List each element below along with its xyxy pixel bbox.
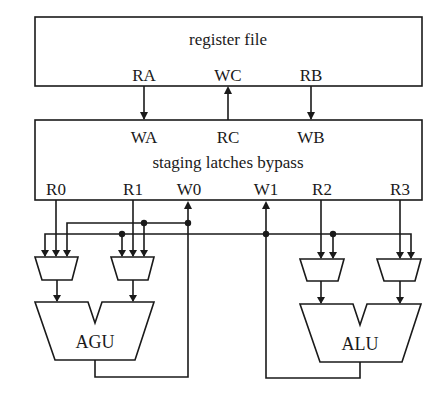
port-wc: WC — [214, 66, 241, 85]
port-r2: R2 — [312, 180, 332, 199]
arrowhead-down-icon — [396, 297, 404, 304]
port-wa: WA — [131, 128, 158, 147]
arrowhead-up-icon — [184, 201, 192, 209]
arrowhead-down-icon — [140, 112, 148, 120]
mux-2 — [111, 257, 154, 280]
port-w0: W0 — [177, 180, 202, 199]
arrowhead-down-icon — [53, 295, 61, 302]
agu-label: AGU — [76, 332, 115, 352]
bypass-bus-w1 — [45, 231, 411, 258]
port-r3: R3 — [390, 180, 410, 199]
port-w1: W1 — [254, 180, 279, 199]
arrowhead-up-icon — [262, 201, 270, 209]
mux-1 — [35, 257, 78, 280]
mux-4 — [377, 259, 421, 281]
register-file-block: register file RA WC RB — [35, 17, 422, 86]
register-file-title: register file — [189, 30, 267, 49]
bypass-bus-w0 — [67, 220, 191, 256]
arrowhead-down-icon — [129, 295, 137, 302]
arrowhead-up-icon — [224, 86, 232, 94]
staging-latches-block: WA RC WB staging latches bypass R0 R1 W0… — [35, 120, 422, 200]
port-rc: RC — [217, 128, 240, 147]
arrowhead-down-icon — [307, 112, 315, 120]
alu-label: ALU — [342, 334, 379, 354]
agu-unit: AGU — [35, 302, 154, 360]
mux-input-arrowheads — [41, 250, 415, 259]
port-ra: RA — [132, 66, 156, 85]
arrowhead-down-icon — [317, 297, 325, 304]
mux-3 — [300, 259, 344, 281]
pipeline-diagram: register file RA WC RB WA RC WB staging … — [0, 0, 444, 398]
staging-title: staging latches bypass — [152, 153, 303, 172]
port-r1: R1 — [123, 180, 143, 199]
port-wb: WB — [297, 128, 324, 147]
port-rb: RB — [300, 66, 323, 85]
alu-unit: ALU — [300, 304, 421, 362]
port-r0: R0 — [46, 180, 66, 199]
